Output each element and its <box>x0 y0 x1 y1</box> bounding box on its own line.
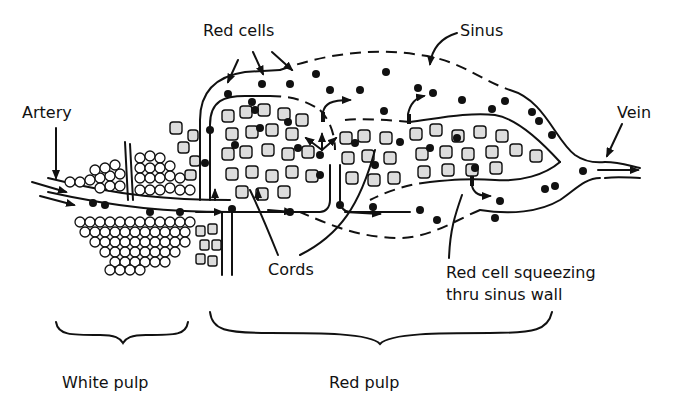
label-white-pulp: White pulp <box>62 373 149 392</box>
pulp-braces: White pulp Red pulp <box>56 312 552 392</box>
label-cords: Cords <box>268 260 314 279</box>
spleen-diagram: Red cells Sinus Artery Vein Cords Red ce… <box>0 0 681 410</box>
label-artery: Artery <box>22 103 72 122</box>
white-pulp-brace <box>56 322 188 343</box>
cord-red-cells <box>222 104 542 200</box>
label-vein: Vein <box>617 103 651 122</box>
red-pulp-brace <box>210 312 552 344</box>
label-sinus: Sinus <box>460 21 503 40</box>
label-red-pulp: Red pulp <box>329 373 399 392</box>
label-red-cell-squeezing-1: Red cell squeezing <box>446 263 596 282</box>
label-red-cell-squeezing-2: thru sinus wall <box>446 285 562 304</box>
label-red-cells: Red cells <box>203 21 274 40</box>
